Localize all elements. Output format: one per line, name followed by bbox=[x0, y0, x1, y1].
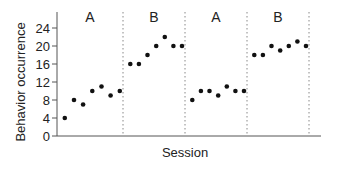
data-point bbox=[63, 116, 68, 121]
y-tick-label: 24 bbox=[36, 21, 50, 36]
data-point bbox=[216, 93, 221, 98]
phase-labels: ABAB bbox=[85, 9, 282, 25]
data-point bbox=[242, 89, 247, 94]
data-point bbox=[128, 62, 133, 67]
data-point bbox=[278, 48, 283, 53]
data-point bbox=[199, 89, 204, 94]
phase-label: A bbox=[85, 9, 95, 25]
data-point bbox=[72, 98, 77, 103]
data-point bbox=[145, 53, 150, 58]
data-point bbox=[261, 53, 266, 58]
data-point bbox=[163, 35, 168, 40]
data-point bbox=[118, 89, 123, 94]
phase-label: A bbox=[211, 9, 221, 25]
y-axis-label: Behavior occurrence bbox=[13, 22, 28, 141]
data-point bbox=[233, 89, 238, 94]
phase-label: B bbox=[273, 9, 282, 25]
data-point bbox=[304, 44, 309, 49]
phase-change-lines bbox=[123, 12, 309, 136]
y-tick-label: 0 bbox=[43, 129, 50, 144]
y-tick-label: 20 bbox=[36, 39, 50, 54]
data-point bbox=[81, 102, 86, 107]
y-tick-label: 4 bbox=[43, 111, 50, 126]
data-point bbox=[180, 44, 185, 49]
y-tick-label: 8 bbox=[43, 93, 50, 108]
data-point bbox=[207, 89, 212, 94]
data-point bbox=[287, 44, 292, 49]
data-point bbox=[108, 93, 113, 98]
y-axis-ticks: 04812162024 bbox=[36, 21, 57, 144]
data-point bbox=[154, 44, 159, 49]
y-tick-label: 12 bbox=[36, 75, 50, 90]
data-point bbox=[225, 84, 230, 89]
y-axis-title: Behavior occurrence bbox=[13, 22, 28, 141]
phase-label: B bbox=[149, 9, 158, 25]
x-axis-label: Session bbox=[162, 145, 208, 160]
data-point bbox=[190, 98, 195, 103]
data-point bbox=[90, 89, 95, 94]
y-tick-label: 16 bbox=[36, 57, 50, 72]
ab-design-chart: Behavior occurrence 04812162024 ABAB Ses… bbox=[0, 0, 338, 169]
data-point bbox=[171, 44, 176, 49]
data-point bbox=[252, 53, 257, 58]
data-point bbox=[99, 84, 104, 89]
data-point bbox=[137, 62, 142, 67]
data-point bbox=[269, 44, 274, 49]
data-point bbox=[295, 39, 300, 44]
